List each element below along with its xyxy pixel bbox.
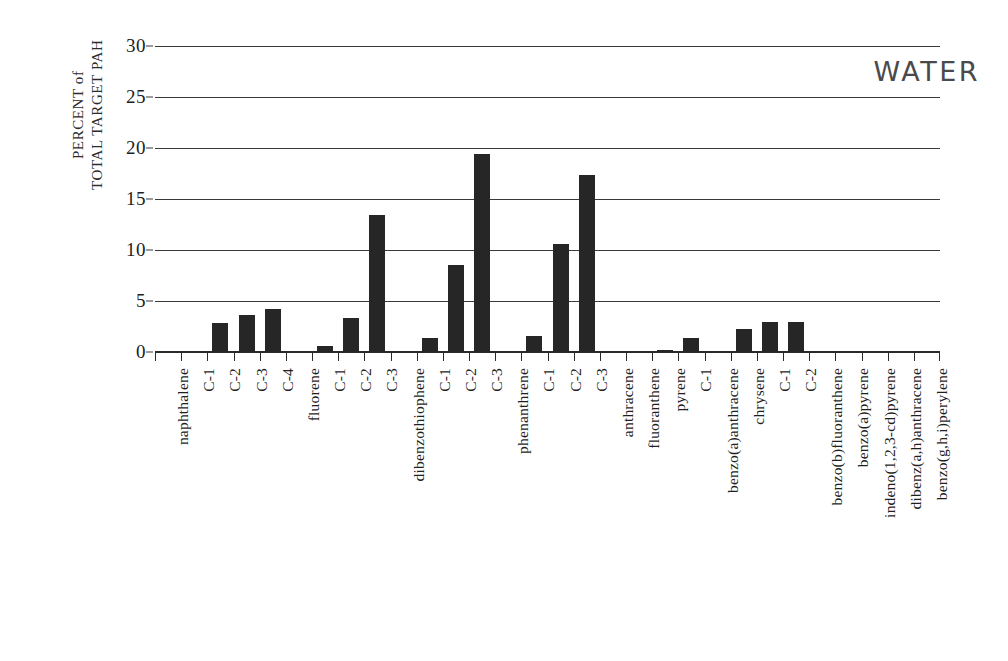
y-tick-label-0: 0 — [136, 341, 146, 363]
x-tick-label: naphthalene — [174, 368, 192, 445]
x-tick-label: C-1 — [540, 368, 558, 392]
x-tick-label: dibenzothiophene — [410, 368, 428, 481]
x-tick-label: C-4 — [279, 368, 297, 392]
x-axis-labels: naphthaleneC-1C-2C-3C-4fluoreneC-1C-2C-3… — [155, 352, 940, 652]
y-tick-mark-20 — [146, 148, 153, 149]
x-tick-label: C-3 — [488, 368, 506, 392]
y-tick-mark-15 — [146, 199, 153, 200]
x-tick-label: fluoranthene — [645, 368, 663, 449]
x-tick-label: C-2 — [462, 368, 480, 392]
gridline-25 — [155, 97, 940, 98]
x-tick-label: C-3 — [253, 368, 271, 392]
y-tick-label-5: 5 — [136, 290, 146, 312]
x-tick-label: C-2 — [357, 368, 375, 392]
x-tick-label: fluorene — [305, 368, 323, 421]
y-tick-mark-0 — [146, 352, 153, 353]
x-tick-label: indeno(1,2,3-cd)pyrene — [881, 368, 899, 518]
y-axis-title: PERCENT of TOTAL TARGET PAH — [69, 0, 107, 245]
gridline-10 — [155, 250, 940, 251]
x-tick-label: C-1 — [200, 368, 218, 392]
bar — [762, 322, 778, 352]
x-tick-label: benzo(a)anthracene — [724, 368, 742, 493]
y-tick-label-30: 30 — [126, 35, 146, 57]
bar — [212, 323, 228, 352]
x-tick-label: C-3 — [383, 368, 401, 392]
gridline-5 — [155, 301, 940, 302]
plot-area: 051015202530 — [155, 46, 940, 352]
bar — [683, 338, 699, 352]
x-tick-label: C-2 — [802, 368, 820, 392]
x-tick-label: dibenz(a,h)anthracene — [907, 368, 925, 509]
x-tick-label: C-2 — [567, 368, 585, 392]
gridline-20 — [155, 148, 940, 149]
bar — [579, 175, 595, 352]
x-tick-label: C-2 — [226, 368, 244, 392]
x-tick-label: benzo(a)pyrene — [854, 368, 872, 467]
bar — [448, 265, 464, 352]
x-tick-label: benzo(b)fluoranthene — [828, 368, 846, 505]
bar — [369, 215, 385, 352]
bar — [736, 329, 752, 352]
bar — [239, 315, 255, 352]
gridline-30 — [155, 46, 940, 47]
bar — [422, 338, 438, 352]
x-tick-label: anthracene — [619, 368, 637, 437]
y-tick-label-25: 25 — [126, 86, 146, 108]
y-axis-title-line-1: PERCENT of — [69, 0, 88, 245]
bar — [788, 322, 804, 352]
bar — [553, 244, 569, 352]
x-tick-label: C-1 — [331, 368, 349, 392]
x-tick-label: C-1 — [776, 368, 794, 392]
x-tick-label: C-1 — [436, 368, 454, 392]
x-tick-label: phenanthrene — [514, 368, 532, 454]
gridline-15 — [155, 199, 940, 200]
y-tick-mark-5 — [146, 301, 153, 302]
y-tick-label-20: 20 — [126, 137, 146, 159]
chart-figure: PERCENT of TOTAL TARGET PAH WATER 051015… — [0, 0, 1008, 661]
y-axis-title-line-2: TOTAL TARGET PAH — [88, 0, 107, 245]
bar — [343, 318, 359, 352]
x-tick-label: pyrene — [671, 368, 689, 411]
x-tick-label: benzo(g,h,i)perylene — [933, 368, 951, 500]
bar — [265, 309, 281, 352]
x-tick-label: chrysene — [750, 368, 768, 425]
y-tick-mark-10 — [146, 250, 153, 251]
y-tick-label-15: 15 — [126, 188, 146, 210]
bar — [474, 154, 490, 352]
bar — [526, 336, 542, 352]
y-tick-mark-25 — [146, 97, 153, 98]
y-tick-label-10: 10 — [126, 239, 146, 261]
x-tick-label: C-3 — [593, 368, 611, 392]
x-tick-label: C-1 — [697, 368, 715, 392]
y-tick-mark-30 — [146, 46, 153, 47]
